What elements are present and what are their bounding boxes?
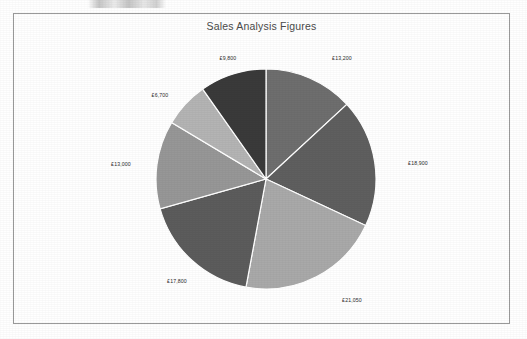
pie-slice-label: £6,700: [152, 92, 169, 98]
pie-chart-svg: [14, 14, 511, 325]
pie-slice-label: £9,800: [220, 55, 237, 61]
pie-slice-label: £13,200: [332, 55, 352, 61]
pie-slice-label: £17,800: [167, 278, 187, 284]
pie-slice-label: £13,000: [111, 161, 131, 167]
scan-artifact-strip: [0, 0, 527, 12]
scan-smudge: [88, 0, 166, 8]
pie-slice-label: £21,050: [342, 297, 362, 303]
pie-slice-label: £18,900: [408, 160, 428, 166]
chart-frame: Sales Analysis Figures £13,200£18,900£21…: [13, 13, 510, 324]
pie-slice-group: [156, 69, 376, 289]
pie-chart: £13,200£18,900£21,050£17,800£13,000£6,70…: [14, 14, 511, 325]
